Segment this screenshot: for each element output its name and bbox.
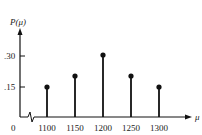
y-axis-arrow-icon [18,28,23,35]
y-axis-label: P(μ) [9,17,26,27]
x-axis-arrow-icon [185,115,192,120]
stem-1200 [100,52,105,117]
stem-1250 [128,73,133,117]
xtick-label-1100: 1100 [38,123,56,133]
stem-chart: P(μ) .30 .15 μ 0 1100 1150 1200 1250 130… [0,0,202,135]
xtick-label-1300: 1300 [150,123,169,133]
origin-label: 0 [11,123,16,133]
xtick-label-1150: 1150 [66,123,84,133]
ytick-label-30: .30 [4,51,16,61]
xtick-label-1250: 1250 [122,123,141,133]
x-axis-label: μ [194,112,200,122]
stem-1150 [72,73,77,117]
ytick-label-15: .15 [4,82,16,92]
stem-1300 [156,84,161,117]
stem-1100 [44,84,49,117]
xtick-label-1200: 1200 [94,123,113,133]
